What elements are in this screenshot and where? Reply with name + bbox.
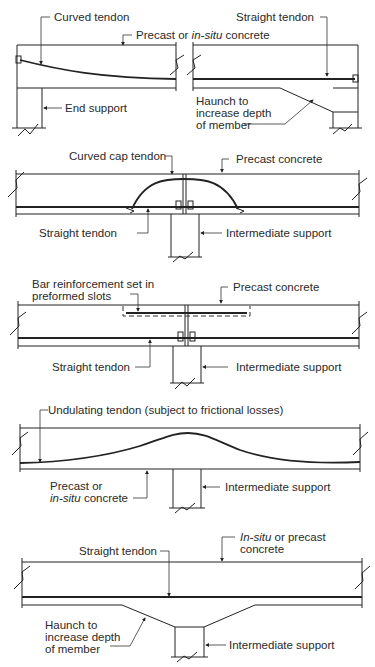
label-haunch-3: of member: [45, 643, 100, 655]
label-concrete-1: Precast or: [50, 480, 102, 492]
label-concrete-italic: in-situ: [192, 29, 223, 41]
label-precast-concrete: Precast concrete: [233, 281, 319, 293]
label-precast-concrete: Precast concrete: [236, 153, 322, 165]
label-haunch-1: Haunch to: [45, 619, 97, 631]
label-intermediate-support: Intermediate support: [226, 227, 331, 239]
label-haunch-2: increase depth: [45, 631, 120, 643]
label-haunch-1: Haunch to: [196, 95, 248, 107]
label-straight-tendon: Straight tendon: [79, 545, 157, 557]
label-concrete-type: Precast or in-situ concrete: [136, 29, 270, 41]
label-bar-reinforcement-2: preformed slots: [32, 290, 111, 302]
label-concrete-italic: in-situ: [50, 492, 81, 504]
label-undulating-tendon: Undulating tendon (subject to frictional…: [48, 404, 283, 416]
label-curved-tendon: Curved tendon: [54, 11, 129, 23]
label-concrete-italic: In-situ: [240, 531, 271, 543]
label-end-support: End support: [65, 102, 127, 114]
label-curved-cap-tendon: Curved cap tendon: [69, 150, 166, 162]
prestressed-continuity-diagram: Curved tendon Precast or in-situ concret…: [0, 0, 375, 667]
label-intermediate-support: Intermediate support: [229, 639, 334, 651]
diagram-drawing: [0, 0, 375, 667]
label-bar-reinforcement-1: Bar reinforcement set in: [32, 278, 154, 290]
label-straight-tendon: Straight tendon: [236, 11, 314, 23]
label-concrete-2: in-situ concrete: [50, 492, 128, 504]
panel-2-beam: [8, 156, 367, 262]
label-concrete-post: concrete: [222, 29, 269, 41]
panel-3-beam: [10, 287, 367, 389]
label-haunch-2: increase depth: [196, 107, 271, 119]
label-straight-tendon: Straight tendon: [39, 227, 117, 239]
label-haunch-3: of member: [196, 119, 251, 131]
label-concrete-2: concrete: [240, 543, 284, 555]
label-concrete-post: concrete: [81, 492, 128, 504]
label-concrete-post: or precast: [271, 531, 325, 543]
label-concrete-pre: Precast or: [136, 29, 192, 41]
label-intermediate-support: Intermediate support: [236, 361, 341, 373]
label-intermediate-support: Intermediate support: [225, 481, 330, 493]
label-concrete-1: In-situ or precast: [240, 531, 326, 543]
label-straight-tendon: Straight tendon: [52, 361, 130, 373]
